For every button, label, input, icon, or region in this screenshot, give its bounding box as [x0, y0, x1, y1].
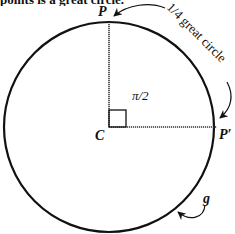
great-circle-diagram: P P′ C π/2 1/4 great circle g [0, 0, 235, 234]
label-quarter-arc: 1/4 great circle [164, 0, 230, 65]
label-P-prime: P′ [219, 127, 232, 142]
label-C: C [95, 128, 105, 143]
right-angle-marker [109, 110, 126, 127]
label-P: P [98, 4, 107, 19]
label-g: g [202, 191, 210, 206]
arrow-to-P [114, 5, 165, 16]
label-angle: π/2 [132, 88, 149, 103]
arrow-g [178, 205, 205, 218]
arrow-to-P-prime [220, 82, 231, 118]
